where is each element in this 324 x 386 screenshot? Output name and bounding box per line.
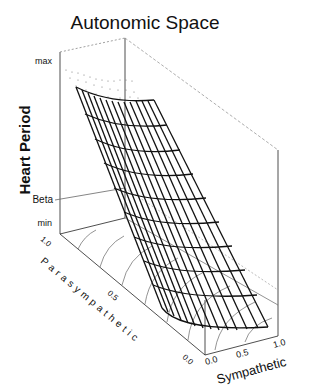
symp-tick-0: 0.0: [204, 354, 219, 367]
chart-title: Autonomic Space: [71, 12, 220, 33]
x-axis-label: Parasympathetic: [39, 255, 143, 345]
autonomic-space-chart: Autonomic Space Heart Period max Beta mi…: [0, 0, 324, 386]
z-tick-beta: Beta: [32, 194, 53, 205]
dotted-projection: [65, 69, 138, 98]
surface-mesh: [76, 87, 268, 330]
para-tick-05: 0.5: [106, 289, 121, 303]
z-tick-max: max: [35, 56, 53, 66]
symp-tick-05: 0.5: [235, 347, 250, 360]
y-axis-label: Sympathetic: [215, 354, 288, 386]
para-tick-0: 0.0: [181, 353, 196, 367]
symp-tick-1: 1.0: [272, 337, 287, 350]
z-axis-label: Heart Period: [16, 105, 33, 194]
z-tick-min: min: [37, 218, 52, 228]
para-tick-1: 1.0: [39, 235, 54, 249]
